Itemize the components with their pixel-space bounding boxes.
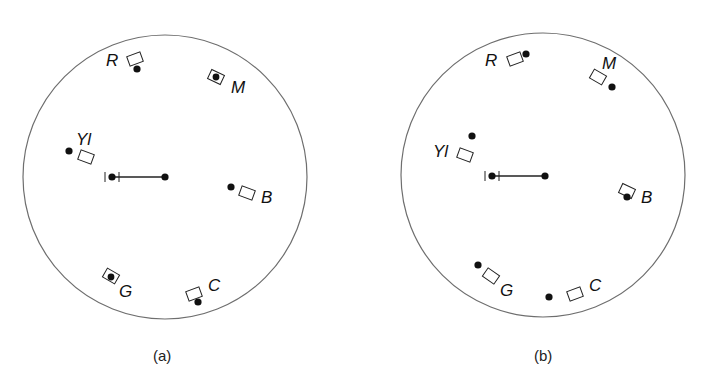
bar-center-dot — [541, 172, 548, 179]
dot-icon — [468, 132, 475, 139]
marker-label: Yl — [433, 142, 449, 161]
box-icon — [457, 148, 474, 162]
marker-label: M — [602, 54, 617, 73]
marker-c: C — [186, 276, 221, 306]
marker-label: R — [106, 51, 118, 70]
dot-icon — [522, 50, 529, 57]
dot-icon — [623, 193, 630, 200]
marker-c: C — [545, 276, 602, 301]
bar-left-dot — [488, 172, 495, 179]
bar-center-dot — [161, 173, 168, 180]
marker-label: C — [208, 276, 221, 295]
marker-yl: Yl — [65, 130, 94, 164]
box-icon — [507, 52, 524, 66]
marker-label: R — [485, 51, 497, 70]
caption-b: (b) — [534, 347, 552, 364]
center-bar — [105, 172, 169, 182]
box-icon — [482, 268, 499, 284]
marker-label: C — [589, 276, 602, 295]
marker-yl: Yl — [433, 132, 476, 162]
panel-b: R M Yl B G C (b) — [401, 33, 685, 364]
dot-icon — [608, 83, 615, 90]
marker-g: G — [102, 268, 132, 301]
dot-icon — [65, 147, 72, 154]
dot-icon — [474, 261, 481, 268]
dot-icon — [108, 274, 115, 281]
dot-icon — [213, 74, 220, 81]
marker-m: M — [208, 70, 246, 97]
marker-r: R — [106, 51, 143, 73]
marker-g: G — [474, 261, 513, 300]
dot-icon — [227, 183, 234, 190]
box-icon — [239, 186, 256, 200]
panel-a: R M Yl B G C (a) — [23, 35, 307, 364]
bar-left-dot — [108, 173, 115, 180]
marker-m: M — [589, 54, 617, 91]
marker-label: Yl — [76, 130, 92, 149]
center-bar — [485, 171, 549, 181]
marker-r: R — [485, 50, 530, 70]
marker-label: B — [261, 188, 272, 207]
marker-label: G — [119, 282, 132, 301]
caption-a: (a) — [153, 347, 171, 364]
marker-label: B — [641, 188, 652, 207]
box-icon — [127, 52, 144, 66]
dot-icon — [545, 293, 552, 300]
diagram-canvas: R M Yl B G C (a) — [0, 0, 705, 383]
marker-label: G — [500, 281, 513, 300]
dot-icon — [133, 65, 140, 72]
marker-b: B — [619, 184, 653, 207]
marker-label: M — [231, 78, 246, 97]
box-icon — [78, 150, 95, 164]
dot-icon — [194, 298, 201, 305]
box-icon — [567, 287, 584, 301]
marker-b: B — [227, 183, 272, 207]
